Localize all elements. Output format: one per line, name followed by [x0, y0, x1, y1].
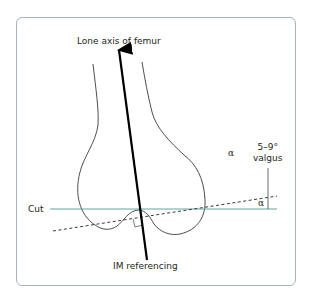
- valgus-angle: 5–9°: [253, 142, 282, 153]
- joint-line-dashed: [53, 196, 277, 231]
- im-referencing-label: IM referencing: [113, 262, 178, 271]
- femoral-axis-arrow: [119, 50, 147, 260]
- valgus-label: 5–9° valgus: [253, 142, 282, 164]
- alpha-label: α: [228, 149, 234, 158]
- cut-label: Cut: [28, 205, 44, 214]
- alpha-angle-label: α: [258, 199, 264, 208]
- axis-title-label: Lone axis of femur: [77, 37, 161, 46]
- valgus-word: valgus: [253, 153, 282, 164]
